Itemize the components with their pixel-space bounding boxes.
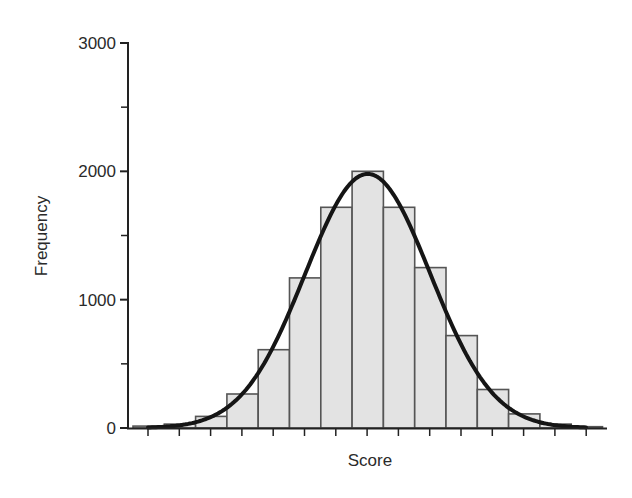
histogram-bar — [383, 207, 414, 428]
y-tick-label: 2000 — [78, 162, 116, 181]
histogram-bars — [133, 171, 603, 428]
histogram-bar — [258, 350, 289, 428]
histogram-bar — [227, 394, 258, 428]
x-axis-ticks — [148, 429, 586, 436]
histogram-chart: 0100020003000 Score Frequency — [0, 0, 632, 498]
y-tick-label: 1000 — [78, 291, 116, 310]
histogram-bar — [415, 268, 446, 428]
x-axis-label: Score — [348, 451, 392, 470]
y-axis-label: Frequency — [32, 195, 51, 276]
histogram-bar — [321, 207, 352, 428]
histogram-bar — [352, 171, 383, 428]
y-tick-label: 0 — [107, 419, 116, 438]
y-tick-label: 3000 — [78, 34, 116, 53]
y-axis-ticks: 0100020003000 — [78, 34, 128, 438]
